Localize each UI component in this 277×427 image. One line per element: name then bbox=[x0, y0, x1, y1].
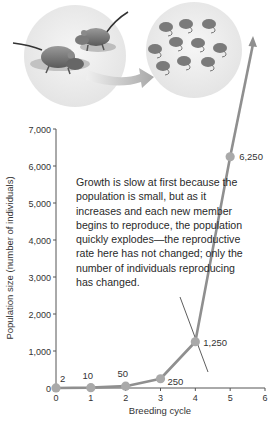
chart-figure: 01,0002,0003,0004,0005,0006,0007,0000123… bbox=[0, 0, 277, 427]
data-point bbox=[226, 152, 235, 161]
y-tick-label: 6,000 bbox=[28, 162, 51, 172]
y-tick-label: 0 bbox=[46, 384, 51, 394]
arrowhead-icon bbox=[249, 36, 258, 47]
y-tick-label: 5,000 bbox=[28, 199, 51, 209]
y-tick-label: 4,000 bbox=[28, 236, 51, 246]
y-tick-label: 2,000 bbox=[28, 310, 51, 320]
y-axis-label: Population size (number of individuals) bbox=[4, 176, 15, 339]
data-point bbox=[191, 337, 200, 346]
data-point bbox=[156, 374, 165, 383]
chart-annotation: Growth is slow at first because the popu… bbox=[76, 175, 251, 289]
data-point bbox=[121, 382, 130, 391]
y-tick-label: 7,000 bbox=[28, 125, 51, 135]
x-tick-label: 6 bbox=[262, 393, 267, 403]
y-tick-label: 3,000 bbox=[28, 273, 51, 283]
x-tick-label: 3 bbox=[158, 393, 163, 403]
x-tick-label: 4 bbox=[193, 393, 198, 403]
x-axis-label: Breeding cycle bbox=[129, 405, 191, 416]
x-tick-label: 1 bbox=[88, 393, 93, 403]
data-point-label: 2 bbox=[60, 373, 65, 384]
x-tick-label: 2 bbox=[123, 393, 128, 403]
data-point-label: 1,250 bbox=[203, 337, 227, 348]
parent-mice-circle bbox=[24, 5, 126, 107]
data-point-label: 6,250 bbox=[239, 151, 263, 162]
annotation-leader-line bbox=[180, 297, 208, 372]
x-tick-label: 0 bbox=[53, 393, 58, 403]
y-tick-label: 1,000 bbox=[28, 347, 51, 357]
data-point-label: 50 bbox=[117, 368, 128, 379]
x-tick-label: 5 bbox=[228, 393, 233, 403]
data-point bbox=[51, 383, 60, 392]
mice-illustration bbox=[13, 2, 242, 107]
data-point-label: 10 bbox=[83, 370, 94, 381]
data-point-label: 250 bbox=[168, 376, 184, 387]
data-point bbox=[86, 383, 95, 392]
